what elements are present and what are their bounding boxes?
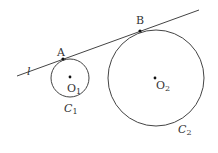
line-label-l: l [27,65,31,78]
point-a-label: A [56,46,66,59]
point-b-label: B [136,14,144,27]
center-o2-label: O2 [156,79,170,93]
tangent-circles-diagram: l O1 C1 O2 C2 A B [0,0,218,153]
circle-c1-label: C1 [64,102,78,116]
circle-c2-label: C2 [178,123,192,137]
center-o1-label: O1 [67,82,81,96]
tangent-line-l [17,10,199,76]
point-b-dot [138,29,141,32]
center-o1-dot [69,76,72,79]
